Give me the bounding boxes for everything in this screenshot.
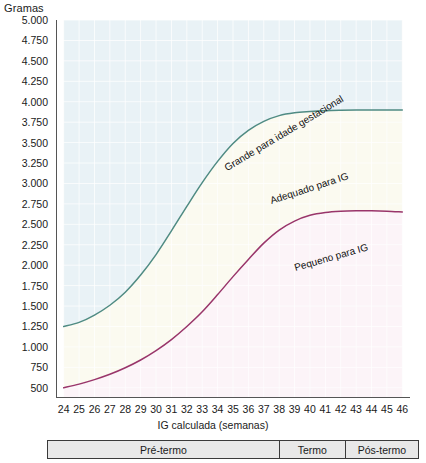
y-tick-label: 2.500 xyxy=(0,219,48,230)
period-cell-2: Pós-termo xyxy=(345,441,418,458)
gestational-period-bar: Pré-termoTermoPós-termo xyxy=(47,440,419,459)
period-cell-0: Pré-termo xyxy=(48,441,279,458)
period-cell-1: Termo xyxy=(279,441,345,458)
plot-area xyxy=(56,20,410,398)
y-tick-label: 2.000 xyxy=(0,260,48,271)
y-tick-label: 2.250 xyxy=(0,239,48,250)
y-tick-label: 4.000 xyxy=(0,96,48,107)
y-tick-label: 1.000 xyxy=(0,341,48,352)
y-tick-label: 3.500 xyxy=(0,137,48,148)
y-tick-label: 750 xyxy=(0,362,48,373)
y-tick-label: 3.250 xyxy=(0,158,48,169)
plot-canvas xyxy=(56,20,410,398)
y-tick-label: 4.750 xyxy=(0,35,48,46)
y-tick-label: 500 xyxy=(0,382,48,393)
growth-chart: Gramas 5007501.0001.2501.5001.7502.0002.… xyxy=(0,0,426,463)
x-axis-title: IG calculada (semanas) xyxy=(0,419,426,431)
y-tick-label: 2.750 xyxy=(0,198,48,209)
y-tick-label: 4.500 xyxy=(0,55,48,66)
y-tick-label: 1.250 xyxy=(0,321,48,332)
x-tick-label: 46 xyxy=(392,404,412,415)
y-tick-label: 5.000 xyxy=(0,15,48,26)
y-tick-label: 1.750 xyxy=(0,280,48,291)
y-axis-title: Gramas xyxy=(4,2,44,14)
y-tick-label: 3.000 xyxy=(0,178,48,189)
y-tick-label: 4.250 xyxy=(0,76,48,87)
y-tick-label: 1.500 xyxy=(0,301,48,312)
y-tick-label: 3.750 xyxy=(0,117,48,128)
